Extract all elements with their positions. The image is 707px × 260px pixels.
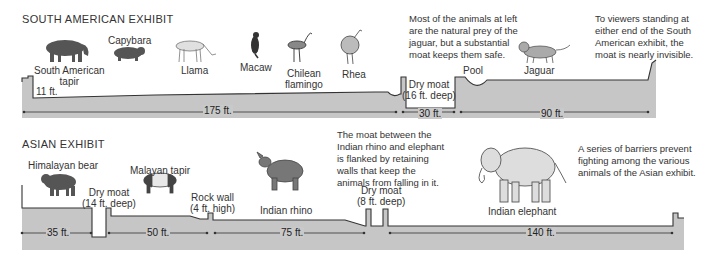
rhino-icon	[257, 152, 303, 190]
label-malayan-tapir: Malayan tapir	[130, 165, 190, 176]
dimension-140ft: 140 ft.	[526, 227, 556, 238]
bear-icon	[41, 174, 76, 196]
dimension-75ft: 75 ft.	[280, 227, 304, 238]
elephant-icon	[479, 148, 566, 202]
note-retaining-walls: The moat between the Indian rhino and el…	[337, 129, 444, 189]
label-himalayan-bear: Himalayan bear	[28, 160, 98, 171]
label-indian-elephant: Indian elephant	[488, 206, 556, 217]
dimension-50ft: 50 ft.	[146, 227, 170, 238]
label-indian-rhino: Indian rhino	[260, 205, 312, 216]
label-dry-moat-14: Dry moat (14 ft. deep)	[82, 187, 136, 209]
label-rock-wall: Rock wall (4 ft. high)	[190, 192, 235, 214]
dimension-35ft: 35 ft.	[46, 227, 70, 238]
malayan-tapir-icon	[144, 173, 176, 193]
note-barriers: A series of barriers prevent fighting am…	[578, 143, 696, 179]
